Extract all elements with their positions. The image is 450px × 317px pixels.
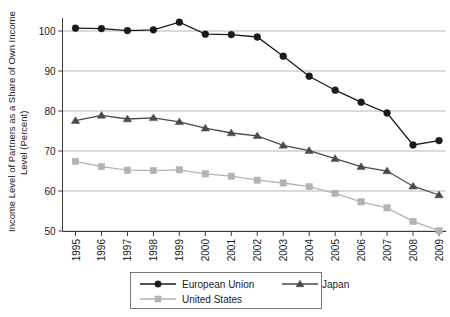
- legend-item-european-union[interactable]: European Union: [140, 279, 254, 290]
- data-point-circle: [150, 26, 157, 33]
- x-axis-ticks: 1995199619971998199920002001200220032004…: [71, 231, 446, 261]
- data-point-circle: [98, 25, 105, 32]
- y-tick-label: 50: [44, 226, 56, 237]
- data-point-circle: [124, 27, 131, 34]
- line-chart: Income Level of Partners as a Share of O…: [0, 0, 450, 317]
- x-tick-label: 1997: [122, 239, 133, 262]
- x-tick-label: 2007: [382, 239, 393, 262]
- data-point-circle: [306, 73, 313, 80]
- y-axis-ticks: 5060708090100: [39, 26, 63, 237]
- data-point-circle: [72, 25, 79, 32]
- legend-label: European Union: [182, 279, 254, 290]
- data-point-circle: [436, 137, 443, 144]
- y-tick-label: 90: [44, 66, 56, 77]
- legend-label: United States: [182, 294, 242, 305]
- x-tick-label: 1999: [174, 239, 185, 262]
- x-tick-label: 2009: [434, 239, 445, 262]
- legend-label: Japan: [322, 279, 349, 290]
- data-point-square: [358, 199, 364, 205]
- data-point-circle: [176, 19, 183, 26]
- data-point-circle: [155, 281, 161, 287]
- data-point-square: [254, 177, 260, 183]
- x-tick-label: 2004: [304, 239, 315, 262]
- chart-legend: European UnionJapanUnited States: [140, 279, 349, 305]
- y-axis-title-line2: Level (Percent): [18, 111, 29, 175]
- x-tick-label: 2000: [200, 239, 211, 262]
- x-tick-label: 2006: [356, 239, 367, 262]
- data-point-square: [155, 296, 161, 302]
- gridlines: [63, 31, 447, 231]
- data-point-square: [176, 167, 182, 173]
- data-point-triangle: [97, 112, 105, 119]
- data-point-square: [306, 183, 312, 189]
- data-point-square: [202, 171, 208, 177]
- x-tick-label: 1995: [71, 239, 82, 262]
- series-european-union: [72, 19, 442, 149]
- y-tick-label: 70: [44, 146, 56, 157]
- y-axis-title-line1: Income Level of Partners as a Share of O…: [6, 11, 17, 232]
- legend-item-japan[interactable]: Japan: [282, 279, 349, 290]
- x-tick-label: 2001: [226, 239, 237, 262]
- y-tick-label: 100: [39, 26, 56, 37]
- data-point-triangle: [149, 114, 157, 121]
- x-tick-label: 2002: [252, 239, 263, 262]
- x-tick-label: 1998: [148, 239, 159, 262]
- data-point-square: [124, 167, 130, 173]
- y-axis-title: Income Level of Partners as a Share of O…: [6, 11, 29, 232]
- x-tick-label: 1996: [96, 239, 107, 262]
- data-point-circle: [384, 110, 391, 117]
- y-tick-label: 80: [44, 106, 56, 117]
- data-point-square: [410, 218, 416, 224]
- y-tick-label: 60: [44, 186, 56, 197]
- legend-item-united-states[interactable]: United States: [140, 294, 242, 305]
- data-point-square: [150, 167, 156, 173]
- x-tick-label: 2005: [330, 239, 341, 262]
- data-point-square: [98, 163, 104, 169]
- data-point-square: [228, 173, 234, 179]
- data-point-circle: [410, 142, 417, 149]
- chart-figure: Income Level of Partners as a Share of O…: [0, 0, 450, 317]
- data-point-square: [280, 180, 286, 186]
- data-point-circle: [332, 87, 339, 94]
- data-point-square: [436, 227, 442, 233]
- data-point-square: [72, 158, 78, 164]
- data-point-circle: [202, 31, 209, 38]
- x-tick-label: 2008: [408, 239, 419, 262]
- data-point-square: [332, 190, 338, 196]
- data-point-triangle: [409, 182, 417, 189]
- data-point-circle: [358, 99, 365, 106]
- data-point-circle: [280, 53, 287, 60]
- x-tick-label: 2003: [278, 239, 289, 262]
- data-point-circle: [254, 34, 261, 41]
- data-series-layer: [71, 19, 443, 234]
- data-point-square: [384, 205, 390, 211]
- data-point-circle: [228, 31, 235, 38]
- series-japan: [71, 112, 443, 198]
